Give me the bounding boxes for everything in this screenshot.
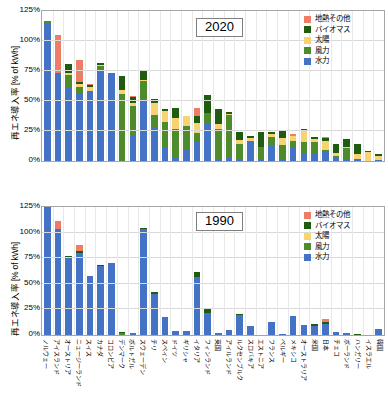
stacked-bar[interactable]: [215, 333, 222, 335]
bar-segment-hydro: [301, 325, 308, 335]
stacked-bar[interactable]: [290, 134, 297, 161]
stacked-bar[interactable]: [87, 276, 94, 335]
stacked-bar[interactable]: [333, 332, 340, 335]
legend-item[interactable]: 風力: [304, 46, 350, 57]
stacked-bar[interactable]: [55, 221, 62, 335]
stacked-bar[interactable]: [44, 207, 51, 335]
legend-item[interactable]: 水力: [304, 56, 350, 67]
stacked-bar[interactable]: [87, 84, 94, 161]
stacked-bar[interactable]: [215, 109, 222, 161]
bar-segment-hydro: [375, 329, 382, 335]
stacked-bar[interactable]: [290, 316, 297, 335]
stacked-bar[interactable]: [97, 265, 104, 335]
stacked-bar[interactable]: [322, 319, 329, 335]
stacked-bar[interactable]: [236, 314, 243, 335]
stacked-bar[interactable]: [76, 60, 83, 161]
bar-segment-hydro: [194, 141, 201, 161]
stacked-bar[interactable]: [194, 108, 201, 161]
stacked-bar[interactable]: [247, 326, 254, 335]
bar-segment-wind: [268, 137, 275, 146]
stacked-bar[interactable]: [44, 21, 51, 161]
legend-item[interactable]: 地熱その他: [304, 210, 350, 221]
bar-segment-geothermal-other: [55, 221, 62, 229]
bar-slot: [245, 207, 256, 335]
stacked-bar[interactable]: [365, 151, 372, 161]
stacked-bar[interactable]: [279, 130, 286, 161]
legend-item[interactable]: 風力: [304, 242, 350, 253]
legend-label: 水力: [315, 56, 329, 67]
stacked-bar[interactable]: [140, 228, 147, 336]
bar-slot: [95, 207, 106, 335]
stacked-bar[interactable]: [130, 333, 137, 335]
stacked-bar[interactable]: [226, 330, 233, 335]
legend-item[interactable]: バイオマス: [304, 25, 350, 36]
stacked-bar[interactable]: [354, 144, 361, 161]
stacked-bar[interactable]: [311, 324, 318, 335]
x-tick-slot: 韓国: [374, 339, 385, 394]
bar-segment-wind: [279, 145, 286, 160]
stacked-bar[interactable]: [119, 76, 126, 161]
stacked-bar[interactable]: [333, 144, 340, 161]
stacked-bar[interactable]: [151, 292, 158, 335]
stacked-bar[interactable]: [172, 331, 179, 335]
y-tick-label: 75%: [6, 66, 40, 74]
stacked-bar[interactable]: [268, 322, 275, 335]
gridline-vertical: [128, 11, 129, 161]
stacked-bar[interactable]: [130, 96, 137, 161]
stacked-bar[interactable]: [375, 154, 382, 161]
stacked-bar[interactable]: [279, 334, 286, 335]
stacked-bar[interactable]: [172, 108, 179, 161]
legend-item[interactable]: 太陽: [304, 35, 350, 46]
stacked-bar[interactable]: [301, 325, 308, 335]
bar-segment-hydro: [130, 333, 137, 335]
gridline-vertical: [256, 11, 257, 161]
stacked-bar[interactable]: [162, 317, 169, 335]
bar-slot: [63, 207, 74, 335]
gridline-vertical: [256, 207, 257, 335]
stacked-bar[interactable]: [268, 132, 275, 161]
stacked-bar[interactable]: [183, 116, 190, 161]
stacked-bar[interactable]: [162, 109, 169, 161]
x-tick-label: オーストラリア: [301, 339, 307, 381]
stacked-bar[interactable]: [311, 137, 318, 161]
legend-item[interactable]: 地熱その他: [304, 14, 350, 25]
bar-segment-wind: [311, 142, 318, 152]
x-tick-slot: 日本: [321, 339, 332, 394]
stacked-bar[interactable]: [194, 272, 201, 335]
stacked-bar[interactable]: [65, 64, 72, 161]
stacked-bar[interactable]: [343, 139, 350, 161]
stacked-bar[interactable]: [354, 334, 361, 335]
legend-item[interactable]: 太陽: [304, 231, 350, 242]
bar-segment-biomass: [279, 130, 286, 138]
stacked-bar[interactable]: [140, 70, 147, 161]
stacked-bar[interactable]: [119, 332, 126, 335]
stacked-bar[interactable]: [236, 132, 243, 161]
stacked-bar[interactable]: [375, 329, 382, 335]
stacked-bar[interactable]: [322, 137, 329, 161]
legend-item[interactable]: バイオマス: [304, 221, 350, 232]
stacked-bar[interactable]: [108, 263, 115, 335]
stacked-bar[interactable]: [97, 63, 104, 161]
y-tick-label: 100%: [6, 36, 40, 44]
gridline-vertical: [299, 11, 300, 161]
stacked-bar[interactable]: [65, 256, 72, 335]
stacked-bar[interactable]: [55, 35, 62, 161]
bar-segment-biomass: [333, 144, 340, 153]
x-tick-label: ベルギー: [280, 339, 286, 363]
stacked-bar[interactable]: [226, 112, 233, 161]
stacked-bar[interactable]: [258, 132, 265, 162]
stacked-bar[interactable]: [183, 331, 190, 335]
bar-segment-hydro: [290, 316, 297, 335]
bar-segment-hydro: [65, 87, 72, 161]
x-tick-label: 日本: [323, 339, 329, 351]
y-tick-label: 100%: [6, 228, 40, 236]
stacked-bar[interactable]: [204, 95, 211, 161]
stacked-bar[interactable]: [343, 333, 350, 335]
bar-segment-hydro: [65, 258, 72, 335]
legend-item[interactable]: 水力: [304, 252, 350, 263]
stacked-bar[interactable]: [301, 129, 308, 161]
stacked-bar[interactable]: [204, 308, 211, 335]
stacked-bar[interactable]: [76, 245, 83, 335]
stacked-bar[interactable]: [108, 73, 115, 161]
stacked-bar[interactable]: [247, 136, 254, 161]
